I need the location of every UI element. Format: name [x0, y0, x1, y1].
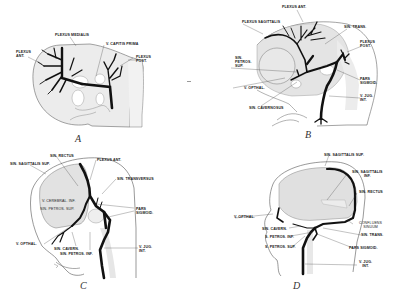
label-s-petros-inf: S. PETROS. INF.: [265, 235, 294, 239]
label-pars-sigmoid: PARS SIGMOID.: [349, 246, 378, 250]
label-plexus-post: PLEXUS POST.: [136, 55, 151, 63]
label-v-opthal: V. OPTHAL.: [16, 242, 37, 246]
label-sin-trans: SIN. TRANS.: [361, 233, 383, 237]
label-pars-sigmoid: PARS SIGMOID.: [360, 77, 377, 85]
panel-c: SIN. RECTUS SIN. SAGITTALIS SUP. PLEXUS …: [0, 148, 197, 297]
label-sin-petros-sup: SIN. PETROS. SUP.: [235, 56, 251, 68]
panel-c-drawing: [0, 148, 197, 297]
label-sin-cavern: SIN. CAVERN.: [54, 247, 79, 251]
label-s-petros-sup: S. PETROS. SUP.: [265, 245, 296, 249]
caption-b: B: [305, 129, 311, 140]
label-v-jug-int: V. JUG. INT.: [360, 94, 373, 102]
panel-a-drawing: [0, 0, 197, 148]
label-sin-sagittalis-inf: SIN. SAGITTALIS INF.: [352, 170, 383, 178]
panel-d: SIN. SAGITTALIS SUP. SIN. SAGITTALIS INF…: [197, 148, 394, 297]
scan-mark: [187, 81, 191, 82]
label-sin-petros-inf: SIN. PETROS. INF.: [60, 252, 93, 256]
panel-b-drawing: [197, 0, 394, 148]
label-v-jug-int: V. JUG. INT.: [359, 260, 372, 268]
label-sin-petros-sup: SIN. PETROS. SUP.: [40, 207, 74, 211]
label-plexus-ant: PLEXUS ANT.: [16, 50, 31, 58]
label-v-opthal: V. OPTHAL.: [244, 86, 265, 90]
label-sin-sagittalis-sup: SIN. SAGITTALIS SUP.: [10, 162, 50, 166]
label-sin-sagittalis-sup: SIN. SAGITTALIS SUP.: [324, 153, 364, 157]
label-v-capitis-prima: V. CAPITIS PRIMA: [106, 42, 138, 46]
panel-b: PLEXUS ANT. PLEXUS SAGITTALIS SIN. TRANS…: [197, 0, 394, 148]
label-plexus-sagittalis: PLEXUS SAGITTALIS: [242, 20, 280, 24]
label-sin-rectus: SIN. RECTUS: [359, 190, 383, 194]
label-plexus-ant: PLEXUS ANT.: [282, 5, 306, 9]
caption-c: C: [80, 280, 87, 291]
label-confluens-sinuum: CONFLUENS SINUUM: [359, 221, 382, 229]
label-sin-cavernosus: SIN. CAVERNOSUS: [249, 106, 284, 110]
label-pars-sigmoid: PARS SIGMOID.: [136, 207, 153, 215]
label-sin-cavern: SIN. CAVERN.: [262, 227, 287, 231]
caption-a: A: [75, 133, 81, 144]
label-v-opthal: V. OPTHAL.: [234, 215, 255, 219]
panel-a: PLEXUS MEDIALIS PLEXUS ANT. V. CAPITIS P…: [0, 0, 197, 148]
caption-d: D: [293, 280, 300, 291]
label-v-cerebral-inf: V. CEREBRAL. INF.: [42, 199, 76, 203]
label-sin-rectus: SIN. RECTUS: [50, 154, 74, 158]
label-plexus-post: PLEXUS POST.: [360, 40, 375, 48]
label-v-jug-int: V. JUG. INT.: [139, 245, 152, 253]
label-plexus-medialis: PLEXUS MEDIALIS: [55, 33, 89, 37]
label-sin-transversus: SIN. TRANSVERSUS: [117, 177, 154, 181]
label-sin-trans: SIN. TRANS.: [344, 25, 366, 29]
label-plexus-ant: PLEXUS ANT.: [97, 158, 121, 162]
